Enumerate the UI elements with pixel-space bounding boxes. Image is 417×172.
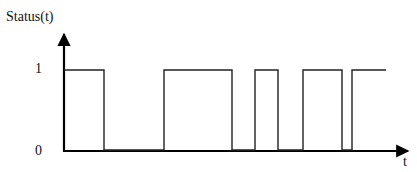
status-waveform bbox=[64, 70, 386, 150]
status-chart bbox=[0, 0, 417, 172]
